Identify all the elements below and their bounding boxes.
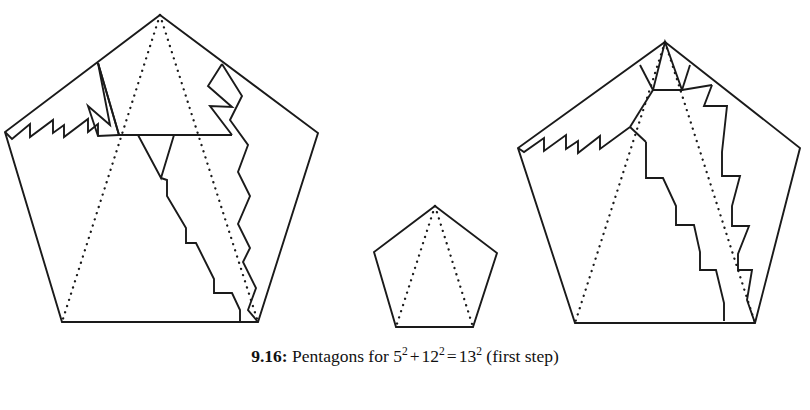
caption-term-3-base: 13 — [459, 346, 477, 366]
caption-term-2: 122 — [422, 346, 445, 366]
small-pentagon-5 — [374, 206, 497, 327]
caption-equals-sign: = — [445, 346, 459, 366]
caption-trailing-text: (first step) — [486, 346, 558, 366]
large-pentagon-13 — [5, 15, 318, 322]
caption-term-2-base: 12 — [422, 346, 440, 366]
caption-term-3-exponent: 2 — [476, 345, 482, 357]
caption-term-1-exponent: 2 — [402, 345, 408, 357]
small-pentagon-outline — [374, 206, 497, 327]
pentagon-dissection-diagram: Pentagon dissection for the Pythagorean … — [0, 0, 810, 345]
caption-plus-sign: + — [408, 346, 422, 366]
caption-figure-number: 9.16: — [251, 346, 287, 366]
large-pentagon-outline — [5, 15, 318, 322]
caption-term-3: 132 — [459, 346, 482, 366]
medium-pentagon-outline — [518, 42, 800, 323]
caption-term-1-base: 5 — [393, 346, 402, 366]
caption-lead-text: Pentagons for — [292, 346, 389, 366]
figure-page: Pentagon dissection for the Pythagorean … — [0, 0, 810, 410]
caption-term-2-exponent: 2 — [439, 345, 445, 357]
figure-caption: 9.16: Pentagons for 52+122=132 (first st… — [0, 344, 810, 368]
medium-pentagon-12 — [518, 42, 800, 323]
caption-term-1: 52 — [393, 346, 408, 366]
